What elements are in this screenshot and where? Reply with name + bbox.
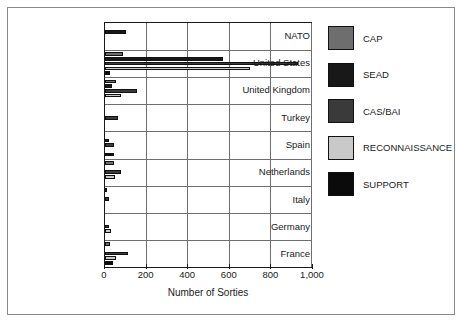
y-axis-label: Italy [293,195,310,205]
x-axis-tick-label: 0 [101,269,106,280]
legend-swatch [328,172,354,196]
legend-label: SUPPORT [363,179,409,190]
y-axis-label: Germany [271,222,310,232]
x-axis-tick-label: 800 [262,269,278,280]
y-axis-label: Netherlands [259,167,310,177]
x-axis-tick-label: 1,000 [300,269,324,280]
legend-swatch [328,99,354,123]
legend-item: CAP [328,22,456,54]
x-axis-tick-label: 200 [138,269,154,280]
y-axis-label: Turkey [281,113,310,123]
legend-item: CAS/BAI [328,95,456,127]
legend-item: RECONNAISSANCE [328,132,456,164]
y-axis-label: Spain [286,140,310,150]
x-axis-tick-label: 600 [221,269,237,280]
y-axis-label: United Kingdom [242,85,310,95]
chart-legend: CAPSEADCAS/BAIRECONNAISSANCESUPPORT [328,22,456,205]
legend-item: SEAD [328,59,456,91]
legend-item: SUPPORT [328,168,456,200]
chart-frame: NATOUnited StatesUnited KingdomTurkeySpa… [7,7,455,315]
legend-swatch [328,63,354,87]
x-axis-title: Number of Sorties [104,287,312,298]
y-axis-label: France [280,249,310,259]
x-axis-tick-label: 400 [179,269,195,280]
y-axis-label: NATO [284,31,310,41]
legend-label: SEAD [363,69,389,80]
x-axis-tick-labels: 02004006008001,000 [104,269,312,283]
legend-label: CAP [363,33,383,44]
legend-label: CAS/BAI [363,106,401,117]
legend-swatch [328,136,354,160]
y-axis-label: United States [253,58,310,68]
legend-label: RECONNAISSANCE [363,142,452,153]
legend-swatch [328,26,354,50]
